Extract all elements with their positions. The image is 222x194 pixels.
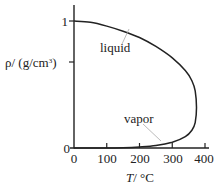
x-tick-label-0: 0 (71, 152, 78, 165)
x-tick-label-400: 400 (194, 152, 214, 165)
y-axis-label-sup: 3 (49, 57, 53, 65)
vapor-annotation: vapor (124, 112, 154, 125)
coexistence-curve (74, 21, 197, 148)
y-axis-label: ρ/ (g/cm3) (5, 56, 57, 69)
y-tick-label-0: 0 (64, 142, 71, 155)
x-tick-label-100: 100 (97, 152, 117, 165)
y-axis-label-prefix: ρ/ (g/cm (5, 55, 49, 70)
y-tick-label-1: 1 (62, 15, 69, 28)
liquid-annotation: liquid (100, 41, 130, 54)
x-axis-label-unit: / °C (133, 170, 154, 185)
vapor-leader-line (143, 124, 161, 141)
x-axis-label: T/ °C (126, 171, 154, 184)
x-tick-label-200: 200 (130, 152, 150, 165)
y-axis-label-suffix: ) (52, 55, 56, 70)
x-tick-label-300: 300 (163, 152, 183, 165)
